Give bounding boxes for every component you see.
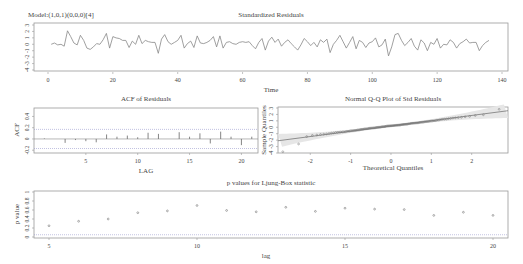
tick-label: -4 — [268, 150, 274, 155]
tick-label: 5 — [84, 158, 87, 164]
tick-label: 120 — [433, 77, 442, 83]
tick-label: -2 — [268, 138, 274, 143]
top-xlabel: Time — [264, 86, 279, 94]
lb-y-axis: 00.20.40.60.81 — [24, 190, 34, 238]
tick-label: 2 — [470, 158, 473, 164]
tick-label: 0 — [47, 77, 50, 83]
acf-y-axis: -0.200.20.4 — [24, 113, 34, 155]
tick-label: -1 — [348, 158, 353, 164]
tick-label: -2 — [24, 55, 30, 60]
tick-label: 0.6 — [24, 206, 30, 213]
tick-label: 80 — [304, 77, 310, 83]
ljung-box-panel: p values for Ljung-Box statistic 00.20.4… — [13, 179, 508, 260]
top-x-axis: 020406080100120140 — [47, 72, 507, 83]
tick-label: 0.4 — [24, 113, 30, 120]
tick-label: 10 — [194, 243, 200, 249]
qq-x-axis: -2-1012 — [308, 153, 473, 164]
standardized-residuals-panel: Model:(1,0,1)(0,0,0)[4] Standardized Res… — [24, 11, 508, 94]
lb-points — [34, 205, 508, 235]
qq-xlabel: Theoretical Quantiles — [363, 164, 424, 172]
tick-label: -2 — [308, 158, 313, 164]
acf-xlabel: LAG — [139, 167, 153, 175]
tick-label: 3 — [24, 23, 30, 26]
tick-label: 0.2 — [24, 224, 30, 231]
tick-label: 140 — [498, 77, 507, 83]
residual-diagnostics-figure: Model:(1,0,1)(0,0,0)[4] Standardized Res… — [0, 0, 523, 264]
tick-label: 0.2 — [24, 124, 30, 131]
tick-label: 0 — [24, 43, 30, 46]
tick-label: -1 — [268, 131, 274, 136]
acf-bars — [34, 129, 258, 148]
tick-label: 15 — [187, 158, 193, 164]
acf-x-axis: 5101520 — [84, 153, 244, 164]
tick-label: 0.8 — [24, 197, 30, 204]
tick-label: 1 — [24, 36, 30, 39]
tick-label: 1 — [430, 158, 433, 164]
acf-ylabel: ACF — [13, 123, 21, 137]
tick-label: -0.2 — [24, 146, 30, 155]
tick-label: 0.4 — [24, 215, 30, 222]
tick-label: 2 — [24, 30, 30, 33]
acf-title: ACF of Residuals — [121, 95, 171, 103]
top-y-axis: 3210-1-2-3-4 — [24, 23, 34, 72]
lb-ylabel: p value — [13, 204, 21, 224]
tick-label: 1 — [24, 190, 30, 193]
tick-label: -3 — [268, 144, 274, 149]
tick-label: 20 — [110, 77, 116, 83]
lb-x-axis: 5101520 — [48, 238, 497, 249]
qq-ylabel: Sample Quantiles — [260, 105, 268, 155]
tick-label: 0 — [268, 126, 274, 129]
tick-label: -1 — [24, 48, 30, 53]
tick-label: 20 — [490, 243, 496, 249]
tick-label: 0 — [24, 235, 30, 238]
top-frame — [34, 23, 508, 71]
top-title: Standardized Residuals — [238, 11, 304, 19]
tick-label: 40 — [175, 77, 181, 83]
tick-label: 20 — [238, 158, 244, 164]
model-label: Model:(1,0,1)(0,0,0)[4] — [28, 11, 94, 19]
lb-xlabel: lag — [262, 252, 271, 260]
lb-frame — [34, 191, 508, 238]
tick-label: -3 — [24, 61, 30, 66]
tick-label: 1 — [268, 119, 274, 122]
tick-label: 100 — [368, 77, 377, 83]
acf-frame — [34, 108, 258, 153]
tick-label: -4 — [24, 67, 30, 72]
qq-title: Normal Q-Q Plot of Std Residuals — [345, 95, 442, 103]
residual-line — [51, 31, 489, 56]
tick-label: 5 — [48, 243, 51, 249]
tick-label: 10 — [135, 158, 141, 164]
tick-label: 60 — [240, 77, 246, 83]
qq-panel: Normal Q-Q Plot of Std Residuals 3210-1-… — [260, 95, 508, 172]
tick-label: 15 — [342, 243, 348, 249]
qq-y-axis: 3210-1-2-3-4 — [268, 106, 278, 155]
tick-label: 0 — [24, 137, 30, 140]
tick-label: 3 — [268, 106, 274, 109]
acf-panel: ACF of Residuals -0.200.20.4 5101520 LAG… — [13, 95, 258, 175]
tick-label: 2 — [268, 113, 274, 116]
lb-title: p values for Ljung-Box statistic — [227, 179, 316, 187]
